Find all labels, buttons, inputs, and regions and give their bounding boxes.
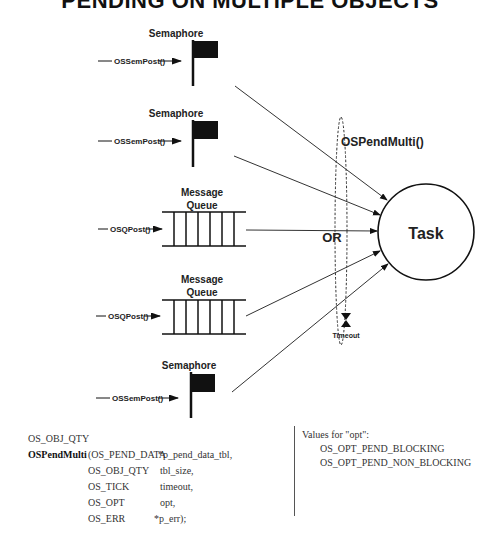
queue-label-line2: Queue [186,200,218,211]
post-call-label: OSSemPost() [114,57,165,66]
post-call-label: OSSemPost() [112,394,163,403]
semaphore-label: Semaphore [162,360,217,371]
queue-label-line2: Queue [186,287,218,298]
opt-value: OS_OPT_PEND_BLOCKING [302,442,471,456]
queue-slots [174,212,234,246]
code-return-type: OS_OBJ_QTY [28,433,89,444]
vertical-divider [294,426,295,516]
semaphore-3: Semaphore [162,360,217,418]
semaphore-label: Semaphore [149,28,204,39]
param-0-name: *p_pend_data_tbl, [158,449,232,460]
param-3-name: opt, [160,497,175,508]
timeout-label: Timeout [332,332,360,339]
queue-slots [174,300,234,334]
post-call-2: OSSemPost() [98,137,181,146]
or-label: OR [322,230,342,245]
param-2-type: OS_TICK [88,481,129,492]
post-call-3: OSQPost() [98,225,162,234]
queue-label-line1: Message [181,274,224,285]
param-0-type: (OS_PEND_DATA [88,449,166,460]
semaphore-label: Semaphore [149,108,204,119]
hourglass-icon [341,313,351,327]
opt-values-panel: Values for "opt": OS_OPT_PEND_BLOCKING O… [302,428,471,470]
pend-function-label: OSPendMulti() [341,135,424,149]
pend-arrows [232,86,388,392]
code-function-name: OSPendMulti [28,449,87,460]
param-1-type: OS_OBJ_QTY [88,465,149,476]
arrow-from-semaphore-3 [232,264,388,392]
message-queue-2: Message Queue [162,274,246,334]
param-3-type: OS_OPT [88,497,125,508]
param-1-name: tbl_size, [160,465,194,476]
queue-label-line1: Message [181,187,224,198]
task-label: Task [408,225,443,242]
post-call-label: OSSemPost() [114,137,165,146]
arrow-from-queue-2 [246,251,380,316]
post-call-label: OSQPost() [110,225,151,234]
opt-value: OS_OPT_PEND_NON_BLOCKING [302,456,471,470]
flag-icon [191,374,215,392]
param-4-type: OS_ERR [88,513,125,524]
arrow-from-queue-1 [246,230,377,231]
arrow-from-semaphore-2 [234,156,380,215]
param-2-name: timeout, [160,481,193,492]
function-name: OSPendMulti [28,449,87,460]
post-call-label: OSQPost() [108,312,149,321]
post-call-4: OSQPost() [96,312,160,321]
post-call-5: OSSemPost() [96,394,178,403]
post-call-1: OSSemPost() [98,57,181,66]
message-queue-1: Message Queue [162,187,246,246]
flag-icon [193,121,218,139]
flag-icon [193,41,218,58]
param-4-name: *p_err); [154,513,186,524]
opt-heading: Values for "opt": [302,428,471,442]
pend-multi-diagram: Semaphore OSSemPost() Semaphore OSSemPos… [0,0,500,420]
